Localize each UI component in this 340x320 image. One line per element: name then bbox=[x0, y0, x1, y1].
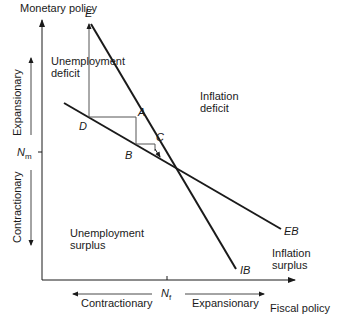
region-unemployment-surplus: Unemploymentsurplus bbox=[70, 227, 144, 251]
point-c-label: C bbox=[156, 131, 164, 143]
point-d-label: D bbox=[79, 120, 87, 132]
ib-line-label: IB bbox=[240, 264, 250, 276]
y-contractionary-label: Contractionary bbox=[11, 171, 23, 243]
eb-line bbox=[64, 103, 281, 229]
x-contractionary-label: Contractionary bbox=[81, 297, 153, 309]
region-inflation-surplus: Inflationsurplus bbox=[272, 247, 311, 271]
policy-diagram bbox=[0, 0, 340, 320]
nm-label: Nm bbox=[17, 146, 32, 163]
point-e-label: E bbox=[85, 7, 92, 19]
eb-line-label: EB bbox=[284, 225, 299, 237]
x-expansionary-label: Expansionary bbox=[192, 297, 259, 309]
region-inflation-deficit: Inflationdeficit bbox=[200, 90, 239, 114]
point-a-label: A bbox=[138, 106, 145, 118]
adjustment-staircase bbox=[89, 117, 155, 151]
region-unemployment-deficit: Unemploymentdeficit bbox=[51, 55, 125, 79]
y-expansionary-label: Expansionary bbox=[11, 69, 23, 136]
nf-label: Nf bbox=[161, 287, 171, 304]
x-axis-label: Fiscal policy bbox=[270, 302, 330, 314]
point-b-label: B bbox=[125, 149, 132, 161]
